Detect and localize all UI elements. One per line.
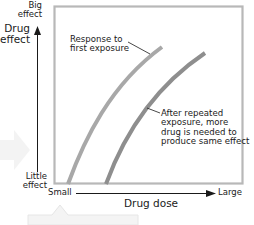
y-axis-title-line2: effect — [0, 34, 30, 45]
background-arrow-shape — [0, 130, 30, 170]
annotation-first-line2: first exposure — [70, 44, 129, 53]
x-axis-arrowhead-icon — [206, 190, 216, 197]
y-axis-arrowhead-icon — [34, 26, 41, 35]
tolerance-diagram: Big effect Drug effect Little effect Sma… — [0, 0, 254, 225]
background-callout-shape — [28, 205, 138, 225]
x-axis-title: Drug dose — [124, 198, 178, 209]
x-high-label: Large — [218, 188, 242, 197]
leader-line-repeated — [147, 108, 160, 113]
y-high-label: Big effect — [18, 1, 42, 19]
y-low-label-line2: effect — [23, 181, 47, 190]
annotation-repeated-exposure: After repeated exposure, more drug is ne… — [161, 109, 249, 147]
leader-line-first — [128, 42, 150, 54]
annotation-first-exposure: Response to first exposure — [70, 35, 129, 54]
y-low-label: Little effect — [23, 172, 47, 190]
y-high-label-line2: effect — [18, 10, 42, 19]
x-low-label: Small — [48, 188, 72, 197]
y-axis-title: Drug effect — [0, 23, 30, 46]
annotation-repeated-line4: produce same effect — [161, 137, 249, 146]
